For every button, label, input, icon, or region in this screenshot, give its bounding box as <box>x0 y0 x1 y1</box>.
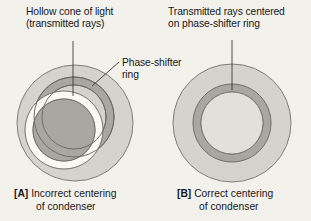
panel-a-incorrect <box>17 65 133 181</box>
label-phase-shifter-ring: Phase-shifterring <box>122 57 181 82</box>
caption-b-line2: of condenser <box>177 201 273 214</box>
label-hollow-cone-line2: (transmitted rays) <box>26 18 104 29</box>
caption-panel-b: [B] Correct centeringof condenser <box>177 188 273 213</box>
caption-a-line2: of condenser <box>14 201 116 214</box>
label-transmitted-rays-centered: Transmitted rays centeredon phase-shifte… <box>168 6 285 31</box>
figure-root: Hollow cone of light(transmitted rays) T… <box>0 0 311 221</box>
label-transmitted-centered-line2: on phase-shifter ring <box>168 18 260 29</box>
panel-b-inner-field <box>201 92 263 154</box>
panel-a-cone-core <box>33 99 95 161</box>
caption-b-line1: Correct centering <box>194 188 273 199</box>
caption-b-tag: [B] <box>177 188 191 199</box>
label-transmitted-centered-line1: Transmitted rays centered <box>168 6 285 17</box>
label-phase-shifter-line1: Phase-shifter <box>122 57 181 68</box>
label-hollow-cone-line1: Hollow cone of light <box>26 6 113 17</box>
caption-a-tag: [A] <box>14 188 28 199</box>
caption-a-line1: Incorrect centering <box>31 188 116 199</box>
label-phase-shifter-line2: ring <box>122 69 139 80</box>
caption-panel-a: [A] Incorrect centeringof condenser <box>14 188 116 213</box>
label-hollow-cone: Hollow cone of light(transmitted rays) <box>26 6 113 31</box>
